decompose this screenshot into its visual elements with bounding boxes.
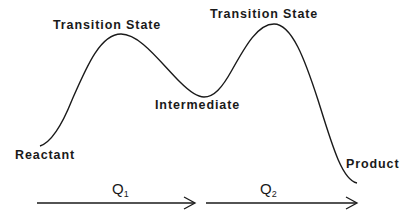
product-label: Product [346, 157, 400, 171]
reactant-label: Reactant [15, 148, 75, 162]
q1-label: Q1 [112, 180, 129, 199]
q2-label: Q2 [260, 180, 277, 199]
transition-state-2-label: Transition State [210, 7, 318, 21]
transition-state-1-label: Transition State [53, 18, 161, 32]
q2-arrow [206, 197, 357, 209]
intermediate-label: Intermediate [155, 98, 240, 112]
